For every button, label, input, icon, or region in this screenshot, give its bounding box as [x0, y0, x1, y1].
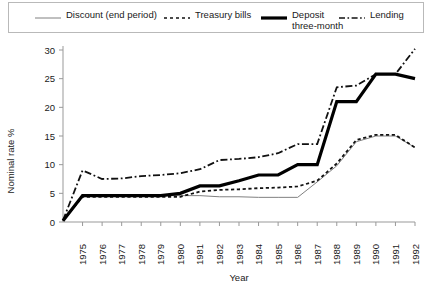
y-tick-label: 10 [44, 159, 55, 170]
series-line-treasury-bills [63, 135, 415, 220]
legend-label-deposit: Deposit [292, 9, 343, 20]
x-tick-label: 1984 [253, 244, 264, 265]
y-tick-label: 30 [44, 45, 55, 56]
x-tick-label: 1985 [273, 244, 284, 265]
y-axis: 051015202530 [44, 45, 63, 228]
x-tick-label: 1978 [136, 244, 147, 265]
x-tick-label: 1977 [116, 244, 127, 265]
x-tick-label: 1981 [194, 244, 205, 265]
legend-swatch-discount [35, 10, 61, 22]
chart-plot-area: 051015202530 197519761977197819791980198… [0, 33, 433, 286]
legend-label-lending: Lending [370, 9, 404, 20]
y-tick-label: 25 [44, 73, 55, 84]
y-tick-label: 0 [50, 217, 55, 228]
legend-item-lending[interactable]: Lending [339, 9, 404, 21]
y-tick-label: 15 [44, 131, 55, 142]
chart-series-group [63, 49, 415, 221]
x-tick-label: 1983 [234, 244, 245, 265]
legend-item-treasury-bills[interactable]: Treasury bills [164, 9, 251, 21]
x-tick-label: 1990 [370, 244, 381, 265]
x-tick-label: 1992 [410, 244, 421, 265]
x-tick-label: 1976 [97, 244, 108, 265]
legend-swatch-deposit [261, 10, 287, 22]
y-tick-label: 20 [44, 102, 55, 113]
x-tick-label: 1982 [214, 244, 225, 265]
legend-label-discount: Discount (end period) [66, 9, 157, 20]
y-tick-label: 5 [50, 188, 55, 199]
legend-item-deposit[interactable]: Deposit three-month [261, 9, 343, 31]
chart-figure: Discount (end period) Treasury bills Dep… [0, 0, 433, 286]
chart-legend: Discount (end period) Treasury bills Dep… [8, 2, 424, 33]
y-axis-title: Nominal rate % [5, 128, 16, 193]
x-tick-label: 1988 [331, 244, 342, 265]
x-tick-label: 1979 [155, 244, 166, 265]
x-tick-label: 1986 [292, 244, 303, 265]
legend-item-discount[interactable]: Discount (end period) [35, 9, 157, 21]
series-line-deposit-three-month [63, 74, 415, 221]
x-tick-label: 1975 [77, 244, 88, 265]
legend-label-treasury-bills: Treasury bills [195, 9, 251, 20]
x-tick-label: 1991 [390, 244, 401, 265]
x-axis: 1975197619771978197919801981198219831984… [63, 222, 421, 265]
x-tick-label: 1989 [351, 244, 362, 265]
legend-swatch-lending [339, 10, 365, 22]
legend-label-deposit-second-line: three-month [292, 20, 343, 31]
x-tick-label: 1980 [175, 244, 186, 265]
x-tick-label: 1987 [312, 244, 323, 265]
legend-swatch-treasury-bills [164, 10, 190, 22]
x-axis-title: Year [229, 272, 248, 283]
